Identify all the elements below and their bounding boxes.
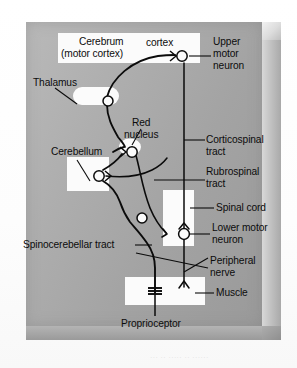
leader-peripheral-nerve-b [184, 258, 208, 272]
label-corticospinal-line1: Corticospinal [206, 134, 264, 145]
label-peripheral-nerve-line1: Peripheral [210, 255, 255, 266]
label-corticospinal-line2: tract [206, 146, 225, 157]
label-red-nucleus-line1: Red [132, 117, 150, 128]
label-cortex: cortex [146, 37, 173, 48]
label-lower-motor-neuron-line2: neuron [212, 234, 243, 245]
spinal-cord-shape [163, 190, 194, 246]
label-upper-motor-neuron-line2: motor [213, 48, 239, 59]
label-rubrospinal-line1: Rubrospinal [206, 166, 259, 177]
cerebellar-relay-node [94, 171, 104, 181]
label-red-nucleus-line2: nucleus [124, 129, 158, 140]
spinocerebellar-relay-node [137, 213, 147, 223]
label-spinal-cord: Spinal cord [216, 202, 266, 213]
label-rubrospinal-line2: tract [206, 178, 225, 189]
label-cerebrum-line2: (motor cortex) [61, 48, 123, 59]
muscle-shape [125, 277, 205, 305]
diagram-artwork [0, 0, 297, 368]
thalamus-relay-node [103, 96, 113, 106]
thalamus-to-brainstem-path [107, 105, 125, 147]
label-muscle: Muscle [216, 287, 248, 298]
label-upper-motor-neuron-line1: Upper [213, 36, 240, 47]
label-peripheral-nerve-line2: nerve [210, 267, 235, 278]
red-nucleus-node [127, 147, 137, 157]
label-cerebrum-line1: Cerebrum [79, 36, 124, 47]
label-lower-motor-neuron-line1: Lower motor [212, 222, 268, 233]
figure-canvas: ․․․ ․․ ․․․․․ ․․ ․․․․․․ [0, 0, 297, 368]
structure-shapes [58, 33, 205, 305]
lower-motor-neuron-soma [179, 229, 190, 240]
leader-peripheral-nerve-a [136, 253, 208, 268]
label-spinocerebellar-tract: Spinocerebellar tract [23, 239, 114, 250]
label-cerebellum: Cerebellum [51, 146, 102, 157]
upper-motor-neuron-soma [177, 51, 187, 61]
label-proprioceptor: Proprioceptor [121, 318, 181, 329]
label-upper-motor-neuron-line3: neuron [213, 60, 244, 71]
label-thalamus: Thalamus [33, 77, 77, 88]
